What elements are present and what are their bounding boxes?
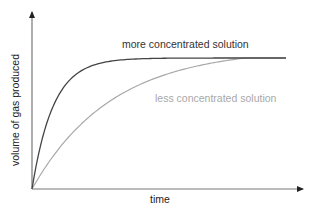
chart-canvas <box>0 0 320 211</box>
less-concentrated-label: less concentrated solution <box>155 93 276 104</box>
more-concentrated-label: more concentrated solution <box>122 39 249 50</box>
y-axis-label: volume of gas produced <box>10 54 21 166</box>
more-concentrated-curve <box>32 58 286 189</box>
less-concentrated-curve <box>32 58 286 189</box>
x-axis-label: time <box>150 194 170 205</box>
